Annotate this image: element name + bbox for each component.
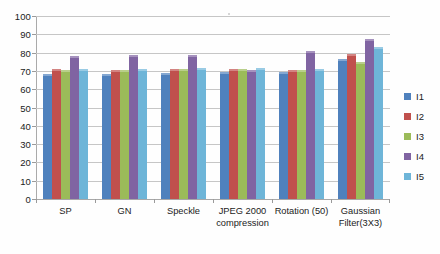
bar-group (154, 16, 213, 199)
bar-highlight (111, 70, 120, 72)
legend-swatch-icon (404, 153, 411, 160)
bar-highlight (338, 59, 347, 61)
bar-chart: 0102030405060708090100 SPGNSpeckleJPEG 2… (0, 0, 440, 254)
x-tick-mark (272, 199, 273, 203)
bar-i1 (338, 59, 347, 199)
y-tick-label: 30 (1, 139, 31, 150)
bar-group (213, 16, 272, 199)
y-tick-label: 100 (1, 11, 31, 22)
legend-item-i2[interactable]: I2 (404, 106, 424, 126)
bar-i1 (279, 72, 288, 199)
bar-i5 (374, 47, 383, 199)
legend-swatch-icon (404, 93, 411, 100)
bar-highlight (229, 69, 238, 71)
y-tick-label: 10 (1, 175, 31, 186)
y-tick-label: 80 (1, 47, 31, 58)
x-tick-mark (36, 199, 37, 203)
x-tick-mark (331, 199, 332, 203)
chart-legend: I1I2I3I4I5 (404, 86, 424, 186)
bar-i3 (356, 62, 365, 199)
bar-highlight (247, 70, 256, 72)
bar-highlight (374, 47, 383, 49)
bar-highlight (297, 70, 306, 72)
y-tick-label: 60 (1, 84, 31, 95)
bar-highlight (70, 56, 79, 58)
y-tick-label: 20 (1, 157, 31, 168)
bar-i2 (111, 70, 120, 199)
legend-item-i4[interactable]: I4 (404, 146, 424, 166)
bar-i3 (61, 70, 70, 199)
plot-area (36, 16, 390, 199)
bar-highlight (347, 54, 356, 56)
bar-highlight (238, 69, 247, 71)
bar-highlight (356, 62, 365, 64)
y-tick-label: 40 (1, 120, 31, 131)
y-tick-label: 70 (1, 65, 31, 76)
bar-highlight (79, 69, 88, 71)
bar-group (331, 16, 390, 199)
legend-swatch-icon (404, 173, 411, 180)
bar-i3 (179, 69, 188, 199)
legend-label: I4 (416, 151, 424, 162)
bar-i2 (288, 70, 297, 199)
legend-item-i3[interactable]: I3 (404, 126, 424, 146)
x-tick-mark (154, 199, 155, 203)
x-axis-label: SP (36, 206, 95, 218)
y-tick-label: 90 (1, 29, 31, 40)
bar-i2 (52, 69, 61, 199)
bar-i1 (161, 73, 170, 199)
bar-i5 (79, 69, 88, 199)
legend-item-i1[interactable]: I1 (404, 86, 424, 106)
bar-i4 (306, 51, 315, 199)
y-tick-label: 0 (1, 194, 31, 205)
bar-i1 (102, 74, 111, 199)
bar-highlight (161, 73, 170, 75)
bar-group (36, 16, 95, 199)
bar-i4 (247, 70, 256, 199)
bar-highlight (129, 55, 138, 57)
bar-highlight (43, 74, 52, 76)
bar-highlight (188, 55, 197, 57)
legend-label: I3 (416, 131, 424, 142)
bar-i5 (315, 69, 324, 199)
bar-highlight (170, 69, 179, 71)
legend-label: I5 (416, 171, 424, 182)
x-axis-label: Speckle (154, 206, 213, 218)
bar-highlight (61, 70, 70, 72)
bar-i2 (347, 54, 356, 199)
bar-i1 (220, 72, 229, 199)
bar-i5 (138, 69, 147, 199)
legend-swatch-icon (404, 133, 411, 140)
bar-highlight (102, 74, 111, 76)
bar-highlight (138, 69, 147, 71)
legend-swatch-icon (404, 113, 411, 120)
bar-i5 (197, 68, 206, 199)
x-tick-mark (95, 199, 96, 203)
bar-i4 (188, 55, 197, 199)
bar-highlight (120, 70, 129, 72)
bar-highlight (197, 68, 206, 70)
bar-i2 (229, 69, 238, 199)
bar-i1 (43, 74, 52, 199)
legend-item-i5[interactable]: I5 (404, 166, 424, 186)
legend-label: I1 (416, 91, 424, 102)
bar-highlight (279, 72, 288, 74)
bar-i4 (365, 39, 374, 199)
bar-highlight (52, 69, 61, 71)
bar-highlight (179, 69, 188, 71)
x-axis-label: GN (95, 206, 154, 218)
x-axis-label: Rotation (50) (272, 206, 331, 218)
x-tick-mark (213, 199, 214, 203)
bar-highlight (220, 72, 229, 74)
bar-i3 (238, 69, 247, 199)
bar-highlight (288, 70, 297, 72)
bar-highlight (365, 39, 374, 41)
x-tick-mark (389, 199, 390, 203)
bar-i2 (170, 69, 179, 199)
bar-group (95, 16, 154, 199)
y-tick-label: 50 (1, 102, 31, 113)
bar-i3 (120, 70, 129, 199)
bar-group (272, 16, 331, 199)
legend-label: I2 (416, 111, 424, 122)
bar-highlight (256, 68, 265, 70)
